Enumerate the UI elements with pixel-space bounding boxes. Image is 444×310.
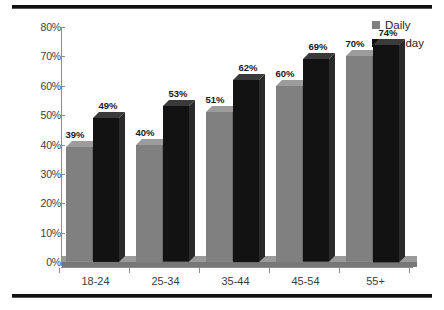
- bar: [163, 106, 189, 262]
- bar-value-label: 40%: [132, 127, 158, 138]
- bar: [373, 45, 399, 262]
- y-axis-tick-label: 60%: [5, 81, 61, 91]
- bar-value-label: 51%: [202, 94, 228, 105]
- y-axis-tick-label: 20%: [5, 198, 61, 208]
- y-tick-text: 50%: [13, 110, 61, 120]
- bar: [66, 147, 92, 262]
- bar-value-label: 53%: [165, 88, 191, 99]
- y-axis-line: [61, 27, 62, 266]
- chart-figure: 80%70%60%50%40%30%20%10%0% 39%49%40%53%5…: [0, 0, 444, 310]
- y-axis-tick-mark: [61, 203, 65, 204]
- bar-value-label: 49%: [95, 100, 121, 111]
- y-axis-tick-label: 10%: [5, 228, 61, 238]
- y-axis-tick-mark: [61, 115, 65, 116]
- y-tick-text: 60%: [13, 81, 61, 91]
- y-tick-text: 10%: [13, 228, 61, 238]
- bar: [276, 86, 302, 262]
- bar-value-label: 60%: [272, 68, 298, 79]
- bar: [136, 145, 162, 263]
- bar-value-label: 62%: [235, 62, 261, 73]
- y-tick-text: 80%: [13, 22, 61, 32]
- y-axis-tick-label: 30%: [5, 169, 61, 179]
- y-tick-text: 70%: [13, 51, 61, 61]
- y-axis-tick-mark: [61, 27, 65, 28]
- y-axis-tick-label: 50%: [5, 110, 61, 120]
- y-tick-text: 40%: [13, 140, 61, 150]
- bar-value-label: 69%: [305, 41, 331, 52]
- bar: [233, 80, 259, 262]
- y-axis-tick-mark: [61, 56, 65, 57]
- x-axis-tick-mark: [339, 268, 340, 273]
- y-axis-tick-label: 0%: [5, 257, 61, 267]
- x-axis-category-label: 25-34: [131, 275, 201, 287]
- x-axis-tick-mark: [269, 268, 270, 273]
- y-axis-tick-mark: [61, 174, 65, 175]
- x-axis-tick-mark: [59, 268, 60, 273]
- bar: [93, 118, 119, 262]
- bar-value-label: 74%: [375, 27, 401, 38]
- bar-value-label: 39%: [62, 129, 88, 140]
- y-tick-text: 30%: [13, 169, 61, 179]
- y-axis-tick-mark: [61, 145, 65, 146]
- y-axis-tick-label: 70%: [5, 51, 61, 61]
- y-axis-tick-label: 80%: [5, 22, 61, 32]
- x-axis-line: [61, 267, 413, 268]
- x-axis-category-label: 55+: [341, 275, 411, 287]
- y-tick-text: 0%: [13, 257, 61, 267]
- x-axis-tick-mark: [199, 268, 200, 273]
- y-axis-tick-mark: [61, 86, 65, 87]
- x-axis-category-label: 18-24: [61, 275, 131, 287]
- x-axis-category-label: 45-54: [271, 275, 341, 287]
- y-axis-tick-label: 40%: [5, 140, 61, 150]
- bar: [303, 59, 329, 262]
- bar: [346, 56, 372, 262]
- y-axis-tick-mark: [61, 233, 65, 234]
- bar-value-label: 70%: [342, 38, 368, 49]
- plot-area: 80%70%60%50%40%30%20%10%0% 39%49%40%53%5…: [0, 0, 444, 310]
- x-axis-tick-mark: [409, 268, 410, 273]
- x-axis-category-label: 35-44: [201, 275, 271, 287]
- bar: [206, 112, 232, 262]
- y-tick-text: 20%: [13, 198, 61, 208]
- x-axis-tick-mark: [129, 268, 130, 273]
